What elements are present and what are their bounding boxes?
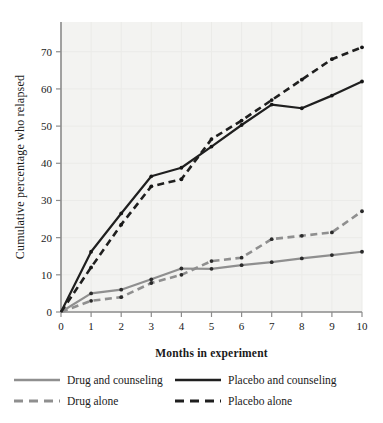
data-point	[180, 177, 184, 181]
x-tick-label: 10	[357, 320, 369, 332]
x-tick-label: 4	[179, 320, 185, 332]
x-tick-label: 6	[239, 320, 245, 332]
data-point	[300, 234, 304, 238]
y-tick-label: 30	[41, 194, 53, 206]
data-point	[210, 267, 214, 271]
data-point	[210, 145, 214, 149]
x-tick-label: 5	[209, 320, 215, 332]
y-axis-ticks: 010203040506070	[41, 46, 61, 318]
data-point	[270, 260, 274, 264]
x-tick-label: 0	[58, 320, 64, 332]
data-point	[270, 98, 274, 102]
data-point	[240, 256, 244, 260]
relapse-line-chart: 010203040506070 012345678910 Months in e…	[0, 0, 383, 423]
x-tick-label: 1	[88, 320, 94, 332]
data-point	[360, 250, 364, 254]
data-point	[240, 123, 244, 127]
data-point	[210, 137, 214, 141]
legend-label-3: Placebo alone	[228, 395, 292, 407]
data-point	[270, 103, 274, 107]
data-point	[119, 288, 123, 292]
y-tick-label: 10	[41, 269, 53, 281]
data-point	[330, 94, 334, 98]
data-point	[210, 259, 214, 263]
data-point	[149, 277, 153, 281]
data-point	[89, 299, 93, 303]
y-tick-label: 0	[47, 306, 53, 318]
x-tick-label: 9	[329, 320, 335, 332]
data-point	[119, 295, 123, 299]
legend-label-1: Placebo and counseling	[228, 374, 337, 387]
x-axis-ticks: 012345678910	[58, 312, 368, 332]
chart-figure: 010203040506070 012345678910 Months in e…	[0, 0, 383, 423]
data-point	[240, 119, 244, 123]
y-tick-label: 70	[41, 46, 53, 58]
x-tick-label: 3	[149, 320, 155, 332]
x-tick-label: 7	[269, 320, 275, 332]
x-tick-label: 2	[118, 320, 124, 332]
data-point	[149, 174, 153, 178]
data-point	[330, 253, 334, 257]
data-point	[360, 45, 364, 49]
data-point	[89, 250, 93, 254]
y-tick-label: 20	[41, 232, 53, 244]
data-point	[149, 281, 153, 285]
x-axis-title: Months in experiment	[155, 347, 268, 360]
data-point	[360, 80, 364, 84]
data-point	[360, 209, 364, 213]
y-tick-label: 50	[41, 120, 53, 132]
data-point	[330, 231, 334, 235]
data-point	[240, 263, 244, 267]
data-point	[330, 57, 334, 61]
data-point	[180, 267, 184, 271]
data-point	[180, 273, 184, 277]
legend-label-2: Drug alone	[67, 395, 118, 408]
data-point	[180, 166, 184, 170]
data-point	[89, 292, 93, 296]
y-tick-label: 60	[41, 83, 53, 95]
data-point	[89, 265, 93, 269]
data-point	[270, 237, 274, 241]
x-tick-label: 8	[299, 320, 305, 332]
chart-legend: Drug and counselingPlacebo and counselin…	[14, 374, 337, 408]
data-point	[300, 78, 304, 82]
data-point	[300, 257, 304, 261]
legend-label-0: Drug and counseling	[67, 374, 163, 387]
data-point	[300, 106, 304, 110]
y-axis-title: Cumulative percentage who relapsed	[13, 75, 27, 259]
data-point	[119, 223, 123, 227]
y-tick-label: 40	[41, 157, 53, 169]
data-point	[149, 184, 153, 188]
data-point	[119, 212, 123, 216]
